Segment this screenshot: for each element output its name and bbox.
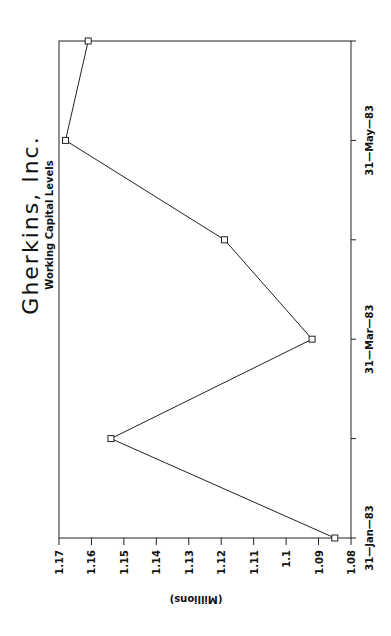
data-markers [62, 38, 337, 541]
y-tick-label: 1.1 [281, 550, 292, 568]
data-point-marker [85, 38, 91, 44]
data-point-marker [108, 436, 114, 442]
y-tick-label: 1.15 [119, 550, 130, 575]
y-tick-label: 1.17 [54, 550, 65, 575]
y-tick-label: 1.14 [151, 550, 162, 575]
y-tick-label: 1.13 [184, 550, 195, 575]
y-axis-ticks: 1.081.091.11.111.121.131.141.151.161.17 [54, 538, 357, 575]
x-axis-ticks: 31—Jan—8331—Mar—8331—May—83 [351, 41, 375, 571]
data-point-marker [332, 535, 338, 541]
data-point-marker [221, 237, 227, 243]
data-point-marker [62, 137, 68, 143]
chart-title: Gherkins, Inc. [18, 135, 43, 314]
x-tick-label: 31—Jan—83 [364, 505, 375, 570]
data-point-marker [309, 336, 315, 342]
x-tick-label: 31—Mar—83 [364, 304, 375, 374]
y-tick-label: 1.11 [249, 550, 260, 575]
y-tick-label: 1.16 [86, 550, 97, 575]
y-tick-label: 1.08 [346, 550, 357, 575]
plot-frame [59, 41, 351, 538]
series-line [66, 41, 335, 538]
chart-subtitle: Working Capital Levels [44, 160, 55, 289]
y-axis-label: (Millions) [170, 594, 223, 605]
line-chart: 1.081.091.11.111.121.131.141.151.161.17 … [0, 0, 391, 636]
x-tick-label: 31—May—83 [364, 105, 375, 176]
y-tick-label: 1.09 [314, 550, 325, 575]
y-tick-label: 1.12 [216, 550, 227, 575]
